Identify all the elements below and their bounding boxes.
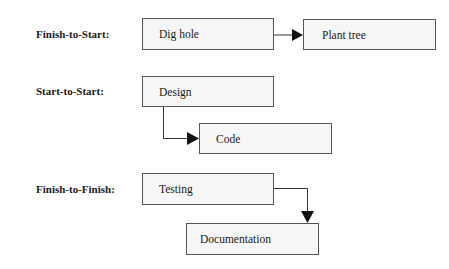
arrow-start-to-start [164, 107, 200, 145]
arrow-finish-to-start [274, 29, 303, 41]
connector-arrows [0, 0, 449, 269]
arrow-finish-to-finish [274, 189, 314, 224]
